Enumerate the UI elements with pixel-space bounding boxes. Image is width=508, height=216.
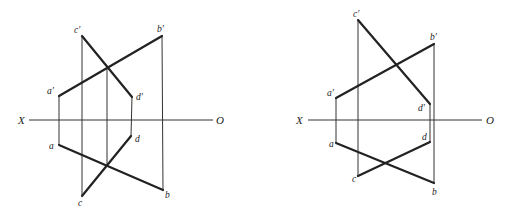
left-label-d-prime: d′ bbox=[136, 92, 144, 102]
right-label-a-prime: a′ bbox=[327, 88, 335, 98]
right-label-c-prime: c′ bbox=[353, 9, 360, 19]
left-label-c: c bbox=[78, 198, 83, 208]
left-label-a: a bbox=[49, 141, 54, 151]
right-axis-label-o: O bbox=[486, 114, 494, 126]
right-label-d-prime: d′ bbox=[418, 103, 426, 113]
left-label-b: b bbox=[165, 190, 170, 200]
left-label-c-prime: c′ bbox=[74, 25, 81, 35]
right-line-c-d bbox=[358, 142, 430, 176]
left-projector-b bbox=[162, 36, 163, 190]
right-line-c-prime-d-prime bbox=[358, 20, 430, 104]
left-projector-d bbox=[131, 97, 132, 136]
right-label-a: a bbox=[329, 139, 334, 149]
right-label-b: b bbox=[432, 187, 437, 197]
left-axis-label-o: O bbox=[216, 114, 224, 126]
left-line-a-prime-b-prime bbox=[59, 36, 162, 96]
right-label-c: c bbox=[352, 174, 357, 184]
left-line-a-b bbox=[59, 145, 163, 190]
right-label-d: d bbox=[422, 132, 427, 142]
left-label-a-prime: a′ bbox=[47, 86, 55, 96]
right-label-b-prime: b′ bbox=[430, 32, 438, 42]
left-axis-label-x: X bbox=[17, 114, 26, 126]
left-diagram: X O a′ b′ c′ d′ a b c d bbox=[17, 24, 224, 208]
right-diagram: X O a′ b′ c′ d′ a b c d bbox=[295, 9, 494, 197]
left-label-b-prime: b′ bbox=[157, 24, 165, 34]
right-axis-label-x: X bbox=[295, 114, 304, 126]
orthographic-projection-diagrams: X O a′ b′ c′ d′ a b c d X O bbox=[0, 0, 508, 216]
left-label-d: d bbox=[135, 134, 140, 144]
